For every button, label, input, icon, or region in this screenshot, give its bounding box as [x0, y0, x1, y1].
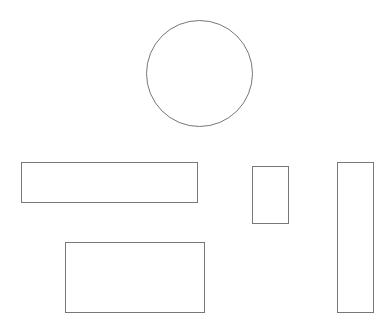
rect-small-shape [252, 166, 289, 224]
rect-tall-shape [337, 162, 374, 313]
rect-wide-shape [21, 162, 198, 203]
rect-bottom-shape [65, 242, 205, 313]
circle-shape [146, 20, 253, 127]
